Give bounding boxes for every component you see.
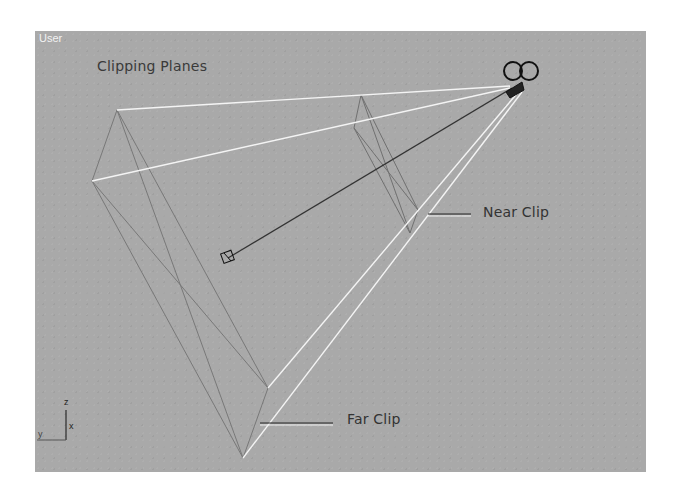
axis-z-label: z <box>64 397 69 407</box>
figure-title: Clipping Planes <box>97 58 207 74</box>
far-clip-label: Far Clip <box>347 411 401 427</box>
axis-x-label: x <box>69 421 74 431</box>
far-clip-plane <box>92 110 268 458</box>
camera-target-icon[interactable] <box>221 250 235 263</box>
far-clip-leader <box>260 423 333 425</box>
scene-canvas <box>0 0 678 494</box>
near-clip-label: Near Clip <box>483 204 549 220</box>
near-clip-leader <box>428 214 471 216</box>
frustum-edges <box>92 86 522 458</box>
axis-y-label: y <box>38 429 43 439</box>
